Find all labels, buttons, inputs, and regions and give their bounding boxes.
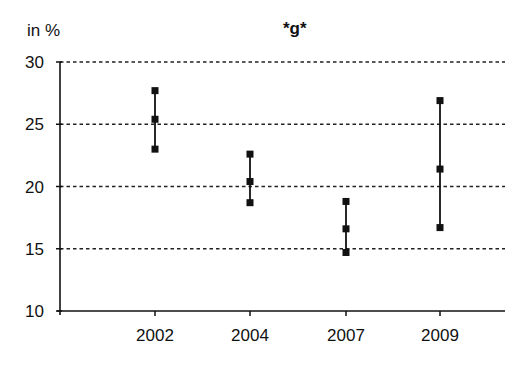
x-tick-label: 2007 xyxy=(327,326,365,345)
marker-low xyxy=(343,249,350,256)
x-tick-label: 2002 xyxy=(136,326,174,345)
marker-low xyxy=(437,224,444,231)
y-tick-label: 20 xyxy=(25,178,44,197)
marker-high xyxy=(343,198,350,205)
y-tick-label: 30 xyxy=(25,53,44,72)
y-tick-labels: 1015202530 xyxy=(25,53,44,321)
y-tick-label: 15 xyxy=(25,240,44,259)
marker-low xyxy=(247,199,254,206)
data-series xyxy=(152,87,444,256)
gridlines xyxy=(60,62,505,249)
x-tick-label: 2004 xyxy=(231,326,269,345)
x-tick-label: 2009 xyxy=(421,326,459,345)
chart-plot: 1015202530 2002200420072009 xyxy=(0,0,520,366)
marker-mid xyxy=(247,178,254,185)
y-tick-label: 10 xyxy=(25,302,44,321)
x-tick-labels: 2002200420072009 xyxy=(136,326,459,345)
y-tick-label: 25 xyxy=(25,115,44,134)
marker-high xyxy=(247,151,254,158)
marker-high xyxy=(152,87,159,94)
marker-mid xyxy=(343,225,350,232)
marker-mid xyxy=(152,116,159,123)
marker-mid xyxy=(437,166,444,173)
marker-low xyxy=(152,146,159,153)
marker-high xyxy=(437,97,444,104)
